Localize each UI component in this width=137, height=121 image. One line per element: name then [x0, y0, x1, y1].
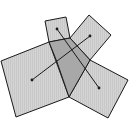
diagram-canvas — [0, 0, 137, 121]
point-top-center — [56, 28, 59, 31]
point-upper-right-center — [89, 35, 92, 38]
point-lower-right-center — [98, 87, 101, 90]
point-left-center — [31, 79, 34, 82]
